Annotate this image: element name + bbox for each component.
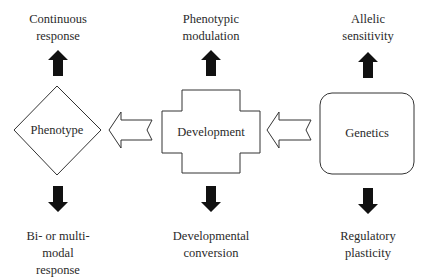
phenotype-label: Phenotype — [31, 123, 84, 138]
phenotypic-modulation-label: Phenotypic modulation — [183, 11, 240, 45]
continuous-response-label: Continuous response — [29, 11, 87, 45]
down-arrow-genetics-icon — [358, 188, 378, 214]
hollow-arrow-genetics-to-development-icon — [267, 112, 311, 148]
regulatory-plasticity-label: Regulatory plasticity — [340, 228, 396, 262]
genetics-label: Genetics — [345, 126, 389, 141]
allelic-sensitivity-label: Allelic sensitivity — [342, 11, 393, 45]
multimodal-response-label: Bi- or multi- modal response — [26, 228, 89, 279]
up-arrow-genetics-icon — [358, 52, 378, 78]
up-arrow-development-icon — [201, 50, 221, 76]
development-label: Development — [177, 125, 244, 140]
plasticity-diagram: Phenotype Development Genetics Continuou… — [0, 0, 426, 279]
down-arrow-phenotype-icon — [48, 186, 68, 212]
up-arrow-phenotype-icon — [48, 50, 68, 76]
down-arrow-development-icon — [201, 186, 221, 212]
developmental-conversion-label: Developmental conversion — [173, 228, 249, 262]
hollow-arrow-development-to-phenotype-icon — [109, 112, 152, 148]
